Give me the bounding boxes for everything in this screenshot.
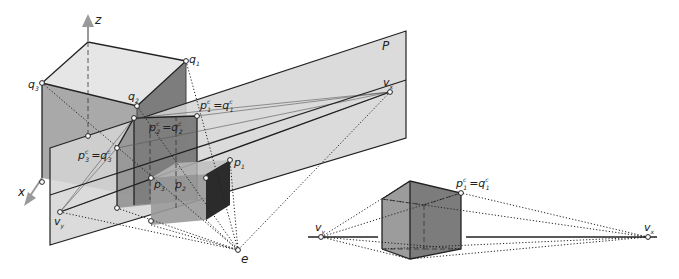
label-p3c-eq-q3c: pc3=qc3	[77, 148, 112, 163]
label-q3: q3	[28, 78, 39, 92]
point-p3c-bottom	[115, 206, 120, 211]
z-axis-arrow-icon	[82, 14, 94, 27]
right-vanishing-rays	[321, 181, 648, 259]
right-label-p1c-eq-q1c: pc1=qc1	[455, 176, 489, 191]
label-q1: q1	[189, 53, 200, 67]
right-label-vy: vy	[315, 221, 326, 236]
point-p3	[149, 176, 154, 181]
right-panel: vy vx pc1=qc1	[308, 176, 657, 259]
point-p1c	[195, 114, 200, 119]
point-vx	[388, 90, 393, 95]
right-label-vx: vx	[644, 221, 655, 235]
point-q3	[40, 81, 45, 86]
z-axis-label: z	[94, 13, 102, 27]
point-q2	[135, 104, 140, 109]
perspective-projection-figure: z P	[0, 0, 679, 279]
point-vy	[58, 210, 63, 215]
point-x-axis	[40, 180, 45, 185]
right-point-p1c	[459, 191, 464, 196]
right-point-vx	[646, 235, 651, 240]
point-q1	[184, 59, 189, 64]
right-point-vy	[319, 235, 324, 240]
point-eye	[236, 248, 241, 253]
z-axis: z	[82, 13, 102, 42]
point-p3c	[115, 146, 120, 151]
point-p1	[228, 158, 233, 163]
x-axis: x	[17, 178, 42, 206]
left-panel: z P	[17, 13, 406, 266]
label-p2c-eq-q2c: pc2=qc2	[148, 120, 183, 135]
right-cube	[382, 181, 461, 259]
point-origin-back	[86, 134, 91, 139]
point-p2	[204, 176, 209, 181]
point-p2c	[132, 116, 137, 121]
label-p1c-eq-q1c: pc1=qc1	[199, 98, 233, 113]
x-axis-arrow-icon	[24, 192, 36, 206]
label-eye: e	[241, 252, 248, 266]
x-axis-label: x	[17, 185, 26, 199]
point-p3-bottom	[149, 219, 154, 224]
plane-label: P	[382, 39, 390, 53]
right-cube-left-face	[382, 181, 410, 259]
